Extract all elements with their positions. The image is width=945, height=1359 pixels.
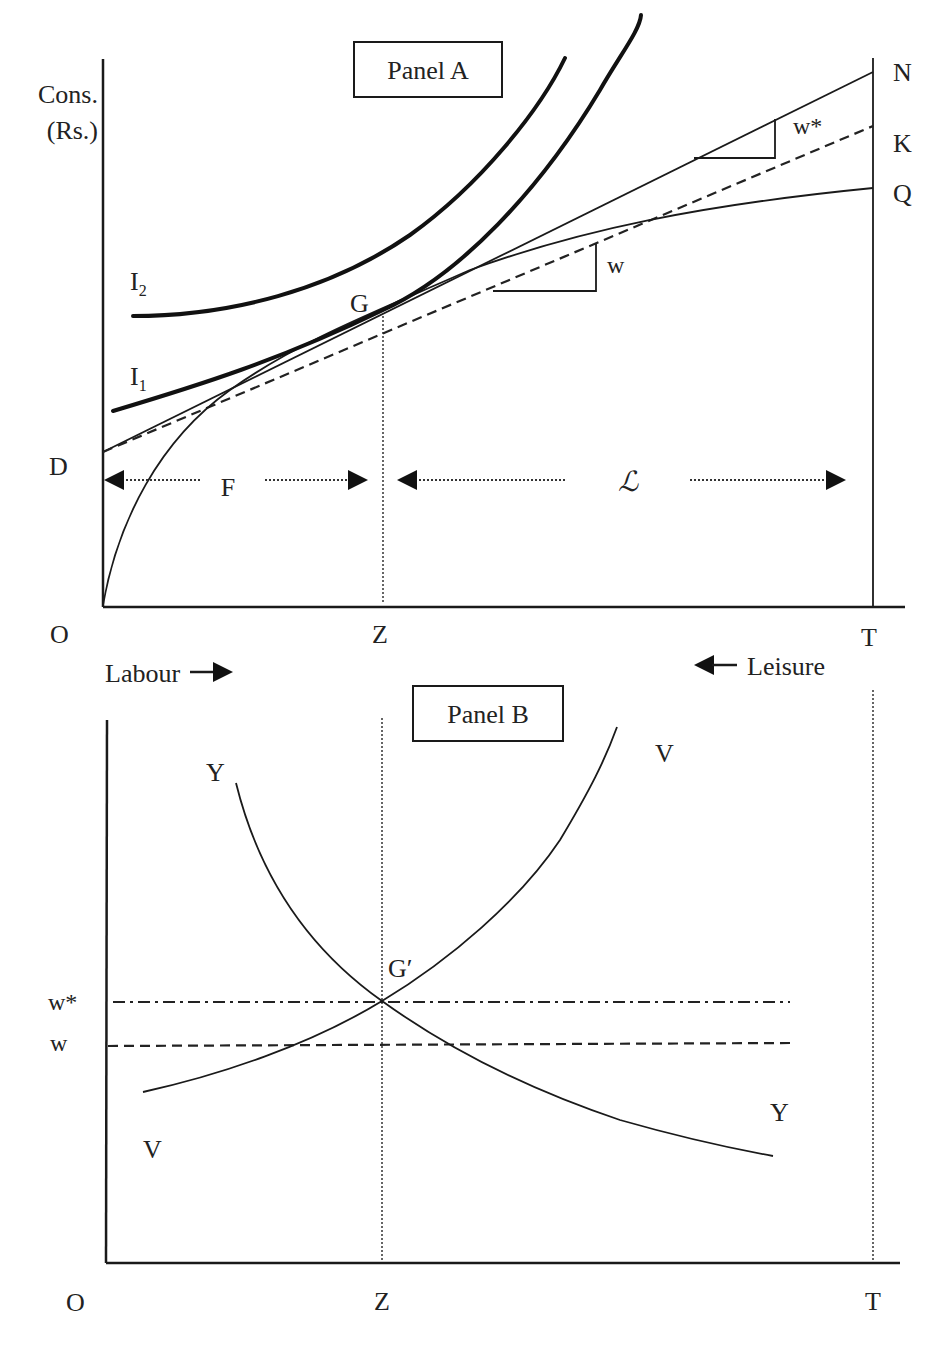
- point-n-label: N: [893, 58, 912, 87]
- labour-arrow-icon: [213, 662, 233, 682]
- panel-a-z-label: Z: [372, 620, 388, 649]
- f-label: F: [221, 473, 235, 502]
- v-curve-bottom-label: V: [143, 1135, 162, 1164]
- panel-b: Panel B Y Y V V G′ w* w O Z T: [48, 686, 900, 1317]
- leisure-arrow-icon: [694, 655, 714, 675]
- labour-direction-label: Labour: [105, 659, 180, 688]
- panel-a-t-label: T: [861, 623, 877, 652]
- l-arrow-left-head: [397, 470, 417, 490]
- panel-b-w-label: w: [50, 1030, 68, 1056]
- panel-b-origin-label: O: [66, 1288, 85, 1317]
- y-curve-top-label: Y: [206, 758, 225, 787]
- wstar-slope-label: w*: [793, 113, 822, 139]
- f-arrow-right-head: [348, 470, 368, 490]
- earnings-curve-oq: [103, 188, 873, 605]
- y-axis-label-rs: (Rs.): [47, 116, 98, 145]
- i1-label: I1: [130, 362, 147, 394]
- point-d-label: D: [49, 452, 68, 481]
- leisure-direction-label: Leisure: [747, 652, 825, 681]
- point-gprime-label: G′: [388, 954, 412, 983]
- i2-label: I2: [130, 267, 147, 299]
- y-curve-bottom-label: Y: [770, 1098, 789, 1127]
- panel-b-z-label: Z: [374, 1287, 390, 1316]
- budget-line-dk-dashed: [103, 126, 873, 452]
- curve-yy: [236, 783, 773, 1156]
- w-slope-label: w: [607, 252, 625, 278]
- v-curve-top-label: V: [655, 739, 674, 768]
- labour-leisure-diagram: Panel A Cons. (Rs.) w* w N K Q I2 I1: [0, 0, 945, 1359]
- panel-a: Panel A Cons. (Rs.) w* w N K Q I2 I1: [38, 15, 912, 688]
- f-arrow-left-head: [104, 470, 124, 490]
- l-arrow-right-head: [826, 470, 846, 490]
- point-g-label: G: [350, 289, 369, 318]
- panel-a-origin-label: O: [50, 620, 69, 649]
- point-q-label: Q: [893, 179, 912, 208]
- budget-line-dn: [103, 72, 873, 452]
- y-axis-label-cons: Cons.: [38, 80, 98, 109]
- panel-b-title: Panel B: [447, 700, 529, 729]
- panel-b-y-axis: [106, 720, 107, 1263]
- panel-b-t-label: T: [865, 1287, 881, 1316]
- leisure-script-l-label: ℒ: [618, 465, 639, 498]
- point-k-label: K: [893, 129, 912, 158]
- panel-b-wstar-label: w*: [48, 989, 77, 1015]
- panel-a-title: Panel A: [387, 56, 469, 85]
- slope-triangle-wstar: [694, 119, 775, 158]
